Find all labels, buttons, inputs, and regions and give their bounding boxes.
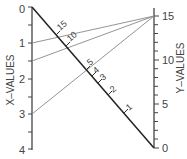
nomogram-chart: 0 1 2 3 4 X–VALUES 15 10 5	[0, 0, 187, 159]
y-tick-10: 10	[162, 54, 174, 66]
y-tick-5: 5	[162, 98, 168, 110]
x-tick-0: 0	[19, 3, 25, 15]
y-tick-0: 0	[162, 142, 168, 154]
x-tick-4: 4	[19, 144, 25, 156]
y-axis-title: Y–VALUES	[175, 42, 186, 93]
x-axis-title: X–VALUES	[5, 54, 16, 105]
x-values-axis: 0 1 2 3 4 X–VALUES	[5, 3, 32, 156]
diag-tick-10: 10	[65, 29, 79, 43]
diag-tick-15: 15	[55, 18, 69, 32]
x-tick-2: 2	[19, 73, 25, 85]
y-values-axis: 15 10 5 0 Y–VALUES	[154, 8, 186, 154]
y-tick-15: 15	[162, 10, 174, 22]
diagonal-scale: 15 10 5 4 3 2 1	[32, 7, 154, 148]
x-tick-3: 3	[19, 108, 25, 120]
x-tick-1: 1	[19, 37, 25, 49]
